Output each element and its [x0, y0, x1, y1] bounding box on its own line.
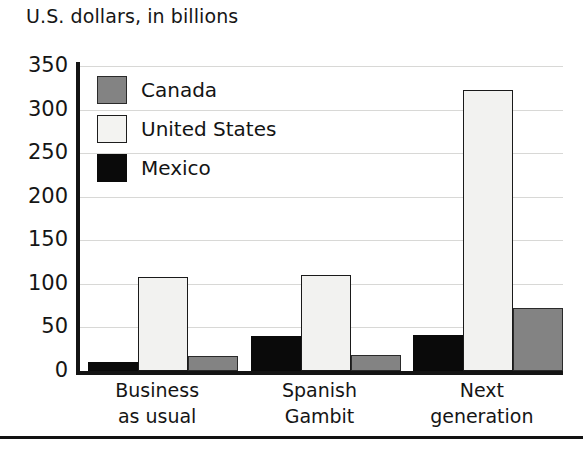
legend-item-canada[interactable]: Canada	[97, 70, 307, 109]
bar-mexico-next-generation	[413, 335, 463, 371]
bar-united-states-business-as-usual	[138, 277, 188, 371]
chart-legend: CanadaUnited StatesMexico	[97, 70, 307, 187]
legend-item-united-states[interactable]: United States	[97, 109, 307, 148]
x-axis-label-line: Spanish	[238, 377, 400, 403]
bar-canada-next-generation	[513, 308, 563, 371]
y-axis-tick-label: 0	[6, 360, 68, 381]
legend-item-label: United States	[141, 117, 276, 141]
legend-swatch-canada-icon	[97, 76, 127, 104]
bar-mexico-business-as-usual	[88, 362, 138, 371]
bar-chart-figure: U.S. dollars, in billions 05010015020025…	[0, 0, 583, 449]
bar-canada-spanish-gambit	[351, 355, 401, 371]
legend-item-mexico[interactable]: Mexico	[97, 148, 307, 187]
x-axis-label-business-as-usual: Businessas usual	[76, 377, 238, 429]
x-axis-label-line: Gambit	[238, 403, 400, 429]
y-axis-tick-label: 200	[6, 186, 68, 207]
bar-united-states-next-generation	[463, 90, 513, 371]
x-axis-label-line: Next	[401, 377, 563, 403]
x-axis-label-spanish-gambit: SpanishGambit	[238, 377, 400, 429]
legend-item-label: Canada	[141, 78, 217, 102]
x-axis-label-line: Business	[76, 377, 238, 403]
bar-mexico-spanish-gambit	[251, 336, 301, 371]
y-axis-tick-label: 50	[6, 316, 68, 337]
x-axis-label-line: as usual	[76, 403, 238, 429]
legend-swatch-mexico-icon	[97, 154, 127, 182]
bar-canada-business-as-usual	[188, 356, 238, 371]
y-axis-tick-label: 150	[6, 229, 68, 250]
legend-swatch-united-states-icon	[97, 115, 127, 143]
y-axis-tick-label: 100	[6, 273, 68, 294]
legend-item-label: Mexico	[141, 156, 211, 180]
bottom-divider	[0, 436, 583, 439]
y-axis-tick-label: 350	[6, 55, 68, 76]
bar-united-states-spanish-gambit	[301, 275, 351, 371]
x-axis-label-next-generation: Nextgeneration	[401, 377, 563, 429]
y-axis-tick-label: 300	[6, 99, 68, 120]
x-axis-label-line: generation	[401, 403, 563, 429]
x-axis-category-labels: Businessas usualSpanishGambitNextgenerat…	[76, 377, 563, 437]
y-axis-tick-label: 250	[6, 142, 68, 163]
x-axis-line	[76, 371, 563, 375]
